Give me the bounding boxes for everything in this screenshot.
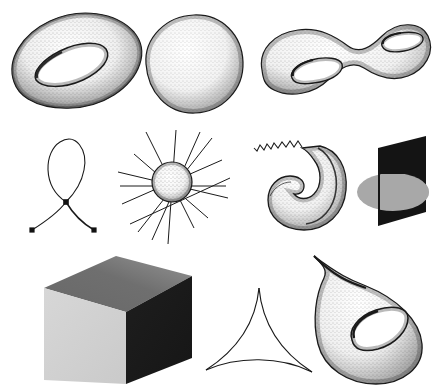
figure-double-torus <box>256 8 433 120</box>
figure-cube <box>42 254 194 386</box>
double-torus-body <box>256 8 433 120</box>
nodal-curve-node <box>63 199 69 205</box>
horn-body <box>254 134 362 238</box>
figure-deltoid-curve <box>202 286 316 382</box>
figure-plane-disc-intersection <box>352 134 433 240</box>
sphere-body <box>138 8 250 120</box>
figure-cuspidal-horn <box>254 134 362 238</box>
figure-sphere <box>138 8 250 120</box>
figure-sheet <box>0 0 433 388</box>
figure-teardrop-torus <box>304 250 433 388</box>
deltoid-arcs <box>206 288 312 372</box>
figure-torus <box>4 8 150 120</box>
horn-zigzag-tail <box>254 141 302 151</box>
figure-radiating-lines-sphere <box>116 128 234 248</box>
nodal-curve-endpoints <box>29 227 96 232</box>
nodal-curve-path <box>32 139 94 230</box>
figure-nodal-curve <box>22 134 110 240</box>
